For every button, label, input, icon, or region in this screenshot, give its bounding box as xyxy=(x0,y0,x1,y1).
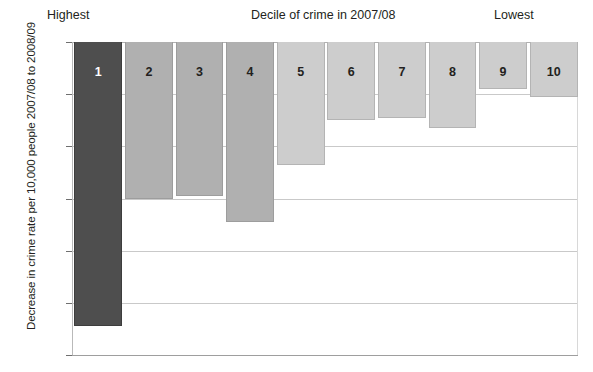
bar-label: 8 xyxy=(430,65,476,79)
y-tick-mark xyxy=(66,251,72,252)
crime-decile-bar-chart: Decrease in crime rate per 10,000 people… xyxy=(0,0,593,372)
gridline-neg100 xyxy=(73,303,577,304)
bar-decile-3[interactable]: 3 xyxy=(176,42,224,196)
bar-decile-7[interactable]: 7 xyxy=(378,42,426,118)
axis-baseline xyxy=(72,355,578,356)
bar-label: 3 xyxy=(177,65,223,79)
bar-label: 4 xyxy=(227,65,273,79)
bar-decile-9[interactable]: 9 xyxy=(479,42,527,89)
y-tick-mark xyxy=(66,94,72,95)
x-axis-title: Decile of crime in 2007/08 xyxy=(251,8,396,22)
bar-decile-2[interactable]: 2 xyxy=(125,42,173,199)
bar-decile-8[interactable]: 8 xyxy=(429,42,477,128)
highest-label: Highest xyxy=(47,8,89,22)
lowest-label: Lowest xyxy=(494,8,534,22)
bar-decile-5[interactable]: 5 xyxy=(277,42,325,165)
y-tick-mark xyxy=(66,199,72,200)
bar-decile-4[interactable]: 4 xyxy=(226,42,274,222)
bar-label: 9 xyxy=(480,65,526,79)
bar-label: 7 xyxy=(379,65,425,79)
bar-label: 2 xyxy=(126,65,172,79)
bar-decile-10[interactable]: 10 xyxy=(530,42,578,97)
bar-label: 1 xyxy=(75,65,121,79)
plot-area: 12345678910 xyxy=(72,42,578,355)
bar-label: 6 xyxy=(328,65,374,79)
bar-decile-6[interactable]: 6 xyxy=(327,42,375,120)
bar-label: 5 xyxy=(278,65,324,79)
bar-decile-1[interactable]: 1 xyxy=(74,42,122,326)
gridline-neg80 xyxy=(73,251,577,252)
y-tick-mark xyxy=(66,146,72,147)
y-tick-mark xyxy=(66,42,72,43)
y-axis-title: Decrease in crime rate per 10,000 people… xyxy=(25,11,37,341)
y-tick-mark xyxy=(66,303,72,304)
gridline-neg60 xyxy=(73,199,577,200)
bar-label: 10 xyxy=(531,65,577,79)
